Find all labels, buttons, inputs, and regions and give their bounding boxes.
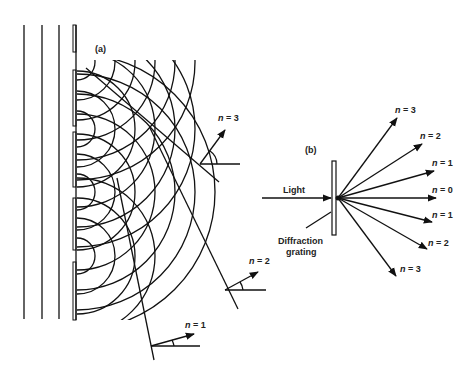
diffracted-rays: [338, 118, 436, 276]
label-a-n3: n = 3: [218, 113, 239, 123]
label-b-n2-down: n = 2: [428, 238, 449, 248]
ray-n2-up: [338, 144, 422, 198]
label-b-n3-down: n = 3: [400, 264, 421, 274]
panel-a: n = 3 n = 2 n = 1 (a): [0, 0, 270, 360]
panel-a-label: (a): [95, 44, 106, 54]
order-labels-b: n = 3 n = 2 n = 1 n = 0 n = 1 n = 2 n = …: [395, 105, 453, 274]
grating-label-line1: Diffraction: [278, 236, 323, 246]
grating-leader-line: [306, 212, 331, 228]
grating-a: [73, 25, 76, 320]
diffraction-figure: n = 3 n = 2 n = 1 (a) (b) Light Diffract…: [0, 0, 467, 379]
label-b-n3-up: n = 3: [395, 105, 416, 115]
incident-wavefronts: [24, 25, 59, 319]
order-a-n3: n = 3: [200, 113, 240, 164]
label-b-n1-down: n = 1: [432, 210, 453, 220]
ray-n1-up: [338, 171, 434, 198]
ray-n3-up: [338, 118, 397, 198]
label-b-n0: n = 0: [432, 185, 453, 195]
grating-b: [332, 161, 336, 235]
ray-n1-down: [338, 198, 432, 222]
wavelets: [0, 0, 215, 334]
order-a-n2: n = 2: [225, 256, 270, 290]
label-b-n1-up: n = 1: [432, 158, 453, 168]
light-label: Light: [283, 185, 305, 195]
panel-b: (b) Light Diffraction grating n = 3 n = …: [262, 105, 453, 276]
ray-n3-down: [338, 198, 396, 276]
ray-n2-down: [338, 198, 427, 249]
panel-b-label: (b): [305, 145, 317, 155]
label-a-n2: n = 2: [249, 256, 270, 266]
label-b-n2-up: n = 2: [420, 131, 441, 141]
label-a-n1: n = 1: [185, 320, 206, 330]
order-a-n1: n = 1: [151, 320, 206, 346]
grating-label-line2: grating: [286, 247, 317, 257]
